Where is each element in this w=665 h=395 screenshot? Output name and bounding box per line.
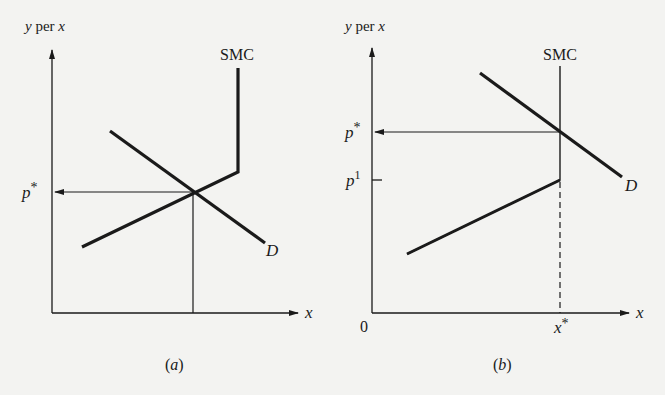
panel-b-smc-sloped-segment bbox=[407, 180, 560, 254]
panel-a-y-axis-label: y per x bbox=[23, 18, 65, 34]
panel-b-xstar-label: x* bbox=[553, 316, 569, 337]
panel-a-demand-curve bbox=[110, 131, 265, 243]
panel-b-y-axis-label: y per x bbox=[343, 18, 385, 34]
panel-a-demand-label: D bbox=[265, 241, 279, 260]
panel-b-p1-label: p1 bbox=[345, 168, 361, 190]
panel-b-smc-label: SMC bbox=[543, 46, 577, 63]
panel-a-smc-curve bbox=[82, 68, 238, 247]
panel-b-origin-label: 0 bbox=[360, 318, 368, 335]
panel-b-pstar-label: p* bbox=[344, 120, 361, 142]
panel-a: y per x SMC D p* x (a) bbox=[21, 18, 313, 374]
panel-b-smc-curve bbox=[407, 66, 560, 254]
panel-b-x-axis-label: x bbox=[635, 303, 644, 322]
panel-b-demand-label: D bbox=[624, 176, 638, 195]
panel-a-x-axis-label: x bbox=[304, 303, 313, 322]
panel-a-caption: (a) bbox=[165, 356, 184, 374]
diagram-canvas: y per x SMC D p* x (a) y per x bbox=[0, 0, 665, 395]
panel-a-pstar-label: p* bbox=[21, 180, 38, 202]
panel-b-caption: (b) bbox=[493, 356, 512, 374]
panel-b-demand-curve bbox=[480, 73, 622, 177]
panel-a-smc-label: SMC bbox=[220, 46, 254, 63]
panel-b: y per x SMC D p* p1 0 x* x (b) bbox=[343, 18, 644, 374]
